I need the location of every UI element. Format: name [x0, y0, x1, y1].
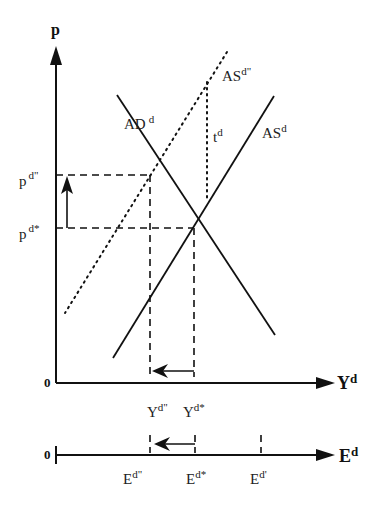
y-new-label: Yd": [147, 401, 168, 420]
as-label: ASd: [262, 122, 287, 141]
upper-panel: p Yd 0 ADd ASd ASd" td: [19, 21, 358, 420]
e-new-label: Ed": [123, 468, 142, 487]
lower-panel: Ed 0 Ed" Ed* Ed': [44, 435, 359, 487]
p-star-label: pd*: [19, 222, 40, 242]
as-new-label: ASd": [222, 65, 251, 84]
economics-diagram: p Yd 0 ADd ASd ASd" td: [0, 0, 374, 506]
price-axis-arrowhead-icon: [50, 46, 62, 65]
ad-label: ADd: [124, 113, 155, 132]
lower-origin-label: 0: [44, 447, 51, 462]
as-new-curve: [65, 52, 227, 313]
p-new-label: pd": [19, 169, 39, 189]
e-prime-label: Ed': [250, 468, 267, 487]
output-axis-arrowhead-icon: [316, 377, 335, 389]
e-star-label: Ed*: [186, 468, 206, 487]
output-axis-label: Yd: [337, 371, 358, 393]
employment-axis-label: Ed: [339, 444, 359, 466]
price-axis-label: p: [51, 21, 60, 39]
employment-axis-arrowhead-icon: [316, 449, 335, 461]
y-star-label: Yd*: [183, 401, 205, 420]
origin-label: 0: [44, 375, 51, 390]
tax-wedge-label: td: [213, 126, 223, 145]
